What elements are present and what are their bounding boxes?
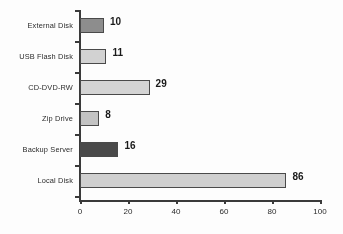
category-label: CD-DVD-RW [0,72,73,103]
x-axis-tick-label: 0 [78,207,82,216]
x-axis-tick [224,200,226,204]
bar [80,80,150,95]
category-label: Backup Server [0,134,73,165]
bar-value-label: 86 [292,171,303,182]
bar-row: Zip Drive8 [0,103,343,134]
bar-value-label: 10 [110,16,121,27]
bar-row: External Disk10 [0,10,343,41]
bar-row: Backup Server16 [0,134,343,165]
bar [80,18,104,33]
x-axis-tick-label: 20 [124,207,133,216]
x-axis-tick-label: 100 [313,207,326,216]
x-axis-tick [176,200,178,204]
bar-row: CD-DVD-RW29 [0,72,343,103]
x-axis-tick [80,200,82,204]
x-axis-tick-label: 80 [268,207,277,216]
category-label: USB Flash Disk [0,41,73,72]
bar [80,111,99,126]
category-label: Local Disk [0,165,73,196]
bar [80,49,106,64]
bar-value-label: 16 [124,140,135,151]
bar-row: Local Disk86 [0,165,343,196]
x-axis-tick [128,200,130,204]
x-axis-tick [272,200,274,204]
category-label: External Disk [0,10,73,41]
bar-value-label: 29 [156,78,167,89]
x-axis-tick-label: 60 [220,207,229,216]
x-axis-tick-label: 40 [172,207,181,216]
bar-value-label: 8 [105,109,111,120]
bar [80,142,118,157]
bar [80,173,286,188]
x-axis-tick [320,200,322,204]
y-axis-tick [75,196,79,198]
bar-value-label: 11 [112,47,123,58]
bar-row: USB Flash Disk11 [0,41,343,72]
bar-chart: External Disk10USB Flash Disk11CD-DVD-RW… [0,0,343,234]
category-label: Zip Drive [0,103,73,134]
x-axis-line [79,200,320,202]
